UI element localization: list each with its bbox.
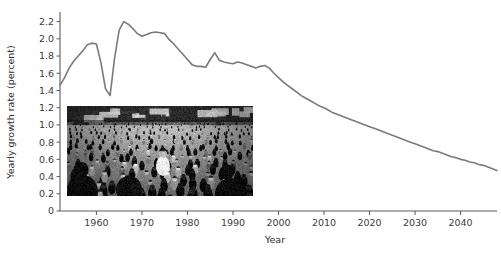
y-tick-label: 1.8 (39, 50, 54, 61)
y-tick-label: 0.8 (39, 137, 54, 148)
crowd-photo-canvas (67, 106, 253, 196)
x-tick-label: 1980 (175, 217, 199, 228)
x-tick-label: 2010 (312, 217, 336, 228)
x-tick-label: 1970 (130, 217, 154, 228)
y-tick-label: 1.0 (39, 119, 54, 130)
y-tick-label: 1.6 (39, 68, 54, 79)
y-axis-title: Yearly growth rate (percent) (5, 45, 16, 180)
y-tick-label: 0.2 (39, 188, 54, 199)
x-tick-label: 2020 (357, 217, 381, 228)
y-tick-label: 2.2 (39, 16, 54, 27)
x-tick-label: 2000 (266, 217, 290, 228)
x-tick-label: 2030 (403, 217, 427, 228)
y-tick-label: 1.4 (39, 85, 54, 96)
y-tick-label: 2.0 (39, 33, 54, 44)
chart-figure: 00.20.40.60.81.01.21.41.61.82.02.2196019… (0, 0, 501, 256)
x-tick-label: 1960 (84, 217, 108, 228)
x-tick-label: 2040 (448, 217, 472, 228)
y-tick-label: 0.4 (39, 171, 54, 182)
inset-crowd-photo (67, 106, 253, 196)
x-axis-title: Year (264, 234, 285, 245)
y-tick-label: 0 (48, 205, 54, 216)
y-tick-label: 1.2 (39, 102, 54, 113)
y-tick-label: 0.6 (39, 154, 54, 165)
x-tick-label: 1990 (221, 217, 245, 228)
